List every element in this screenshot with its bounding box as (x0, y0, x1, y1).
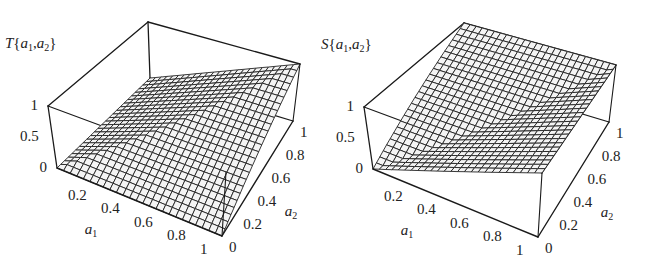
a2-tick-label: 0 (229, 240, 237, 255)
a1-tick-label: 1 (516, 243, 524, 258)
z-tick-label: 0.5 (336, 130, 355, 145)
a2-axis-label: a2 (285, 204, 298, 221)
a1-axis-label: a1 (85, 222, 98, 239)
a2-tick-label: 0.6 (588, 172, 607, 187)
z-tick-label: 0 (40, 160, 48, 175)
surface-mesh (57, 64, 300, 236)
a2-tick-label: 1 (300, 125, 308, 140)
a2-tick-label: 0.6 (272, 171, 291, 186)
z-tick-label: 1 (347, 99, 355, 114)
z-tick-label: 1 (31, 98, 39, 113)
a1-tick-label: 1 (200, 242, 208, 257)
a1-tick-label: 0.4 (101, 201, 120, 216)
a2-tick-label: 0 (545, 241, 553, 256)
a1-tick-label: 0.4 (417, 202, 436, 217)
z-axis-label-T: T{a1,a2} (5, 36, 57, 53)
a1-tick-label: 0.6 (134, 215, 153, 230)
a2-axis-label: a2 (601, 205, 614, 222)
a2-tick-label: 0.2 (559, 218, 578, 233)
a1-tick-label: 0.8 (167, 228, 186, 243)
a2-tick-label: 0.4 (257, 194, 276, 209)
a2-tick-label: 0.4 (573, 195, 592, 210)
a2-tick-label: 0.8 (286, 148, 305, 163)
z-tick-label: 0.5 (20, 129, 39, 144)
surface-mesh (373, 23, 616, 173)
a1-tick-label: 0.8 (483, 229, 502, 244)
a1-tick-label: 0.6 (450, 216, 469, 231)
a2-tick-label: 0.2 (243, 217, 262, 232)
a1-tick-label: 0.2 (384, 189, 403, 204)
a2-tick-label: 0.8 (602, 149, 621, 164)
z-axis-label-S: S{a1,a2} (321, 37, 372, 54)
a2-tick-label: 1 (616, 126, 624, 141)
a1-tick-label: 0.2 (68, 188, 87, 203)
z-tick-label: 0 (356, 161, 364, 176)
a1-axis-label: a1 (401, 223, 414, 240)
